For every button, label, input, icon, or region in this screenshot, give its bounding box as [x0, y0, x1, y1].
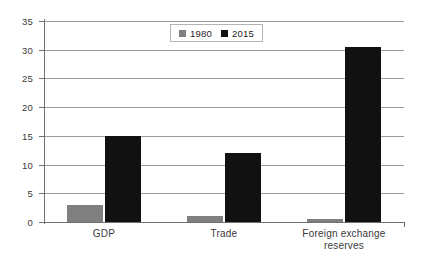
y-tick-label-20: 20 [0, 102, 33, 113]
bar-1980-trade [187, 216, 223, 222]
legend-swatch-icon [221, 30, 228, 37]
x-axis-end-tick [404, 222, 405, 227]
legend-swatch-icon [179, 30, 186, 37]
x-label-line: Trade [211, 228, 238, 239]
y-axis-tick-labels: 05101520253035 [0, 0, 37, 265]
bar-2015-trade [225, 153, 261, 222]
x-label-line: GDP [93, 228, 115, 239]
y-tick-label-15: 15 [0, 130, 33, 141]
legend-label: 1980 [190, 28, 212, 39]
y-tick-label-10: 10 [0, 159, 33, 170]
y-tick-label-0: 0 [0, 217, 33, 228]
y-tick-label-35: 35 [0, 16, 33, 27]
x-label-line: reserves [279, 240, 409, 252]
y-tick-label-5: 5 [0, 188, 33, 199]
bar-1980-gdp [67, 205, 103, 222]
legend-entry-1980: 1980 [179, 28, 212, 39]
legend-label: 2015 [232, 28, 254, 39]
chart-legend: 19802015 [170, 24, 263, 42]
y-tick-label-25: 25 [0, 73, 33, 84]
bars-layer [44, 21, 404, 222]
y-tick-0 [39, 222, 44, 223]
y-tick-label-30: 30 [0, 44, 33, 55]
bar-2015-gdp [105, 136, 141, 222]
x-axis-line [44, 222, 405, 223]
bar-2015-foreign-exchange-reserves [345, 47, 381, 222]
bar-chart: 05101520253035 GDPTradeForeign exchanger… [0, 0, 421, 265]
x-label-line: Foreign exchange [302, 228, 385, 239]
bar-1980-foreign-exchange-reserves [307, 219, 343, 222]
x-axis-label-gdp: GDP [39, 228, 169, 240]
x-axis-label-foreign-exchange-reserves: Foreign exchangereserves [279, 228, 409, 252]
legend-entry-2015: 2015 [221, 28, 254, 39]
x-axis-label-trade: Trade [159, 228, 289, 240]
